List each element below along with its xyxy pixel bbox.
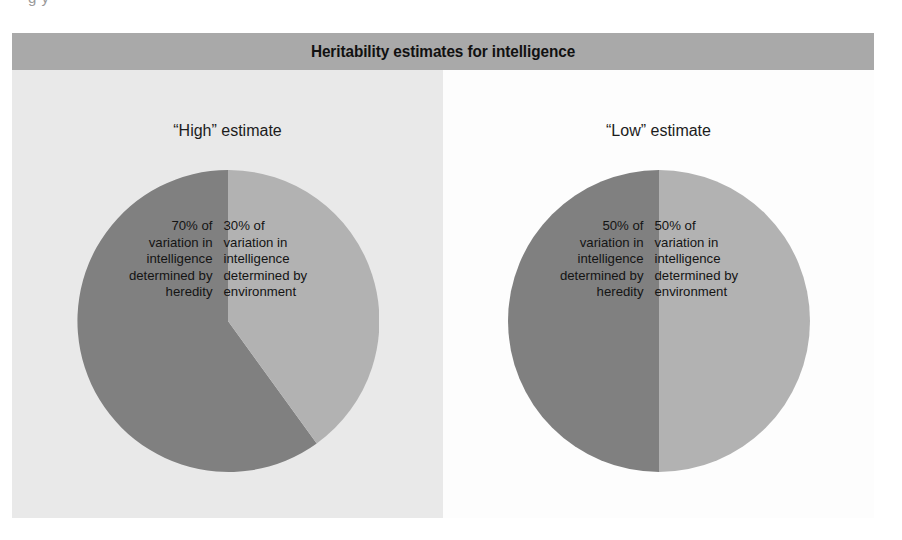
figure-body: Heritability estimates for intelligence …	[12, 33, 874, 518]
pie-panels: “High” estimate 70% of variation in inte…	[12, 70, 874, 518]
panel-label-high: “High” estimate	[12, 122, 443, 140]
pie-label-environment-low: 50% of variation in intelligence determi…	[651, 218, 810, 301]
panel-high-estimate: “High” estimate 70% of variation in inte…	[12, 70, 443, 518]
figure-title: Heritability estimates for intelligence	[311, 42, 575, 61]
pie-labels-low: 50% of variation in intelligence determi…	[508, 170, 810, 472]
pie-label-heredity-high: 70% of variation in intelligence determi…	[77, 218, 220, 301]
panel-low-estimate: “Low” estimate 50% of variation in intel…	[443, 70, 874, 518]
panel-label-low: “Low” estimate	[443, 122, 874, 140]
figure-container: g y Heritability estimates for intellige…	[0, 0, 902, 540]
figure-title-bar: Heritability estimates for intelligence	[12, 33, 874, 70]
pie-labels-high: 70% of variation in intelligence determi…	[77, 170, 379, 472]
pie-label-environment-high: 30% of variation in intelligence determi…	[220, 218, 379, 301]
pie-label-heredity-low: 50% of variation in intelligence determi…	[508, 218, 651, 301]
caption-remnant-text: g y	[28, 0, 50, 6]
